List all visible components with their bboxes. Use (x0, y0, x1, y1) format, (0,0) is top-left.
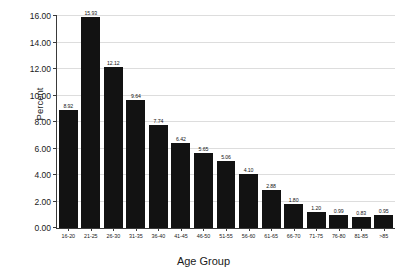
x-tick-mark (271, 228, 272, 231)
y-tick-label: 14.00 (30, 38, 51, 48)
bar-group: 1.2071-75 (305, 16, 328, 228)
bar-group: 0.95>85 (372, 16, 395, 228)
x-tick-label: >85 (379, 233, 388, 239)
plot-area: 0.002.004.006.008.0010.0012.0014.0016.00… (56, 16, 395, 229)
x-tick-label: 56-60 (242, 233, 256, 239)
x-tick-label: 21-25 (84, 233, 98, 239)
x-tick-mark (181, 228, 182, 231)
bar (171, 143, 190, 228)
bar-group: 2.8861-65 (260, 16, 283, 228)
x-tick-mark (384, 228, 385, 231)
bar (329, 215, 348, 228)
y-tick-label: 0.00 (34, 223, 51, 233)
bar (374, 215, 393, 228)
bar-group: 4.1056-60 (237, 16, 260, 228)
bar-value-label: 1.20 (311, 205, 321, 211)
y-tick-label: 10.00 (30, 91, 51, 101)
x-tick-label: 26-30 (107, 233, 121, 239)
bar-group: 12.1226-30 (102, 16, 125, 228)
y-axis-title: Percent (34, 64, 45, 144)
bar (59, 110, 78, 228)
bar-group: 0.9976-80 (327, 16, 350, 228)
bar (149, 125, 168, 228)
x-tick-label: 76-80 (332, 233, 346, 239)
bar-value-label: 15.93 (85, 10, 97, 16)
bar-value-label: 8.92 (63, 103, 73, 109)
bar-value-label: 2.88 (266, 183, 276, 189)
bar (239, 174, 258, 228)
bar-group: 8.9216-20 (57, 16, 80, 228)
x-tick-mark (249, 228, 250, 231)
x-tick-label: 46-50 (197, 233, 211, 239)
bar-chart: Percent 0.002.004.006.008.0010.0012.0014… (0, 0, 407, 280)
x-tick-mark (136, 228, 137, 231)
bar-value-label: 7.74 (154, 118, 164, 124)
x-tick-mark (294, 228, 295, 231)
x-axis-title: Age Group (0, 255, 407, 267)
bar-group: 7.7436-40 (147, 16, 170, 228)
y-tick-label: 12.00 (30, 64, 51, 74)
bar-value-label: 5.06 (221, 154, 231, 160)
bar-group: 6.4241-45 (170, 16, 193, 228)
bar-value-label: 1.80 (289, 197, 299, 203)
x-tick-label: 36-40 (152, 233, 166, 239)
bar (284, 204, 303, 228)
bar-value-label: 6.42 (176, 136, 186, 142)
bar (194, 153, 213, 228)
x-tick-label: 66-70 (287, 233, 301, 239)
x-tick-label: 31-35 (129, 233, 143, 239)
y-tick-label: 2.00 (34, 197, 51, 207)
bar-value-label: 9.64 (131, 93, 141, 99)
bar (126, 100, 145, 228)
x-tick-mark (339, 228, 340, 231)
x-tick-mark (203, 228, 204, 231)
y-tick-label: 16.00 (30, 11, 51, 21)
x-tick-mark (361, 228, 362, 231)
bar (81, 17, 100, 228)
x-tick-mark (68, 228, 69, 231)
bar-value-label: 4.10 (244, 167, 254, 173)
x-tick-label: 61-65 (264, 233, 278, 239)
x-tick-label: 41-45 (174, 233, 188, 239)
y-tick-label: 8.00 (34, 117, 51, 127)
bar-value-label: 0.99 (334, 208, 344, 214)
y-tick-label: 6.00 (34, 144, 51, 154)
bar (262, 190, 281, 228)
x-tick-mark (113, 228, 114, 231)
bar-group: 0.8381-85 (350, 16, 373, 228)
bar-value-label: 12.12 (107, 60, 119, 66)
y-tick-label: 4.00 (34, 170, 51, 180)
bar-group: 9.6431-35 (125, 16, 148, 228)
bar-value-label: 0.83 (356, 210, 366, 216)
x-tick-label: 81-85 (354, 233, 368, 239)
bar (217, 161, 236, 228)
bar (104, 67, 123, 228)
bar-group: 5.6546-50 (192, 16, 215, 228)
bar (352, 217, 371, 228)
bar-group: 5.0651-55 (215, 16, 238, 228)
x-tick-mark (91, 228, 92, 231)
x-tick-label: 71-75 (309, 233, 323, 239)
bar-value-label: 0.95 (379, 208, 389, 214)
x-tick-label: 16-20 (61, 233, 75, 239)
bar-group: 15.9321-25 (80, 16, 103, 228)
bar-group: 1.8066-70 (282, 16, 305, 228)
bar-value-label: 5.65 (199, 146, 209, 152)
bar (307, 212, 326, 228)
x-tick-label: 51-55 (219, 233, 233, 239)
x-tick-mark (158, 228, 159, 231)
x-tick-mark (226, 228, 227, 231)
x-tick-mark (316, 228, 317, 231)
